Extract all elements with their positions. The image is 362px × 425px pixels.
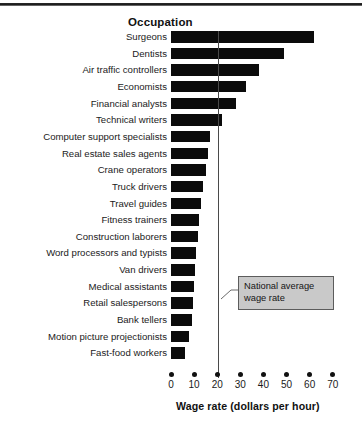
tick-dot <box>307 372 312 377</box>
bar-category-label: Real estate sales agents <box>62 148 167 160</box>
tick-dot <box>284 372 289 377</box>
bar <box>171 314 192 326</box>
bar <box>171 264 195 276</box>
bar-category-label: Economists <box>117 81 167 93</box>
bar-category-label: Technical writers <box>96 114 167 126</box>
bar-category-label: Air traffic controllers <box>82 64 167 76</box>
tick-dot <box>169 372 174 377</box>
bar-category-label: Van drivers <box>119 264 167 276</box>
bar-category-label: Motion picture projectionists <box>48 331 167 343</box>
bar-category-label: Dentists <box>132 48 167 60</box>
tick-dot <box>192 372 197 377</box>
bar <box>171 114 222 126</box>
bar-category-label: Computer support specialists <box>43 131 167 143</box>
bar <box>171 247 196 259</box>
bar <box>171 131 210 143</box>
bar-category-label: Word processors and typists <box>46 247 167 259</box>
national-average-annotation: National average wage rate <box>238 276 334 310</box>
bar <box>171 64 259 76</box>
bar <box>171 198 201 210</box>
bar <box>171 297 193 309</box>
bar <box>171 48 284 60</box>
occupation-column-header: Occupation <box>128 16 193 28</box>
tick-dot <box>330 372 335 377</box>
bar-category-label: Medical assistants <box>89 281 167 293</box>
bar-category-label: Fast-food workers <box>90 347 167 359</box>
bar <box>171 214 199 226</box>
x-axis-title: Wage rate (dollars per hour) <box>176 400 362 412</box>
annotation-line-1: National average <box>244 281 328 293</box>
wage-rate-bar-chart: Occupation SurgeonsDentistsAir traffic c… <box>0 0 362 425</box>
bar-category-label: Fitness trainers <box>101 214 167 226</box>
annotation-line-2: wage rate <box>244 293 328 305</box>
bar <box>171 347 185 359</box>
bar-category-label: Surgeons <box>126 31 167 43</box>
plot-area: SurgeonsDentistsAir traffic controllersE… <box>171 31 342 364</box>
tick-dot <box>215 372 220 377</box>
bar <box>171 31 314 43</box>
bar <box>171 181 203 193</box>
bar-category-label: Retail salespersons <box>83 297 167 309</box>
tick-dot <box>238 372 243 377</box>
bar-category-label: Financial analysts <box>91 98 167 110</box>
x-axis: 010203040506070 <box>171 372 342 402</box>
bar-category-label: Truck drivers <box>112 181 167 193</box>
bar <box>171 231 198 243</box>
bar <box>171 281 194 293</box>
bar-category-label: Travel guides <box>110 198 167 210</box>
bar-category-label: Construction laborers <box>76 231 167 243</box>
bar-category-label: Crane operators <box>98 164 167 176</box>
bar <box>171 148 208 160</box>
bar <box>171 81 246 93</box>
bar-category-label: Bank tellers <box>117 314 167 326</box>
tick-dot <box>261 372 266 377</box>
x-axis-tick-label: 70 <box>319 379 347 390</box>
bar <box>171 331 189 343</box>
top-rule-divider <box>0 3 362 6</box>
national-average-line <box>218 31 219 378</box>
bar <box>171 164 206 176</box>
bar <box>171 98 236 110</box>
